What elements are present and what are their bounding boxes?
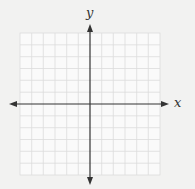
x-axis-label: x xyxy=(174,95,181,110)
coordinate-plane xyxy=(0,0,195,189)
y-axis-label: y xyxy=(86,5,93,20)
